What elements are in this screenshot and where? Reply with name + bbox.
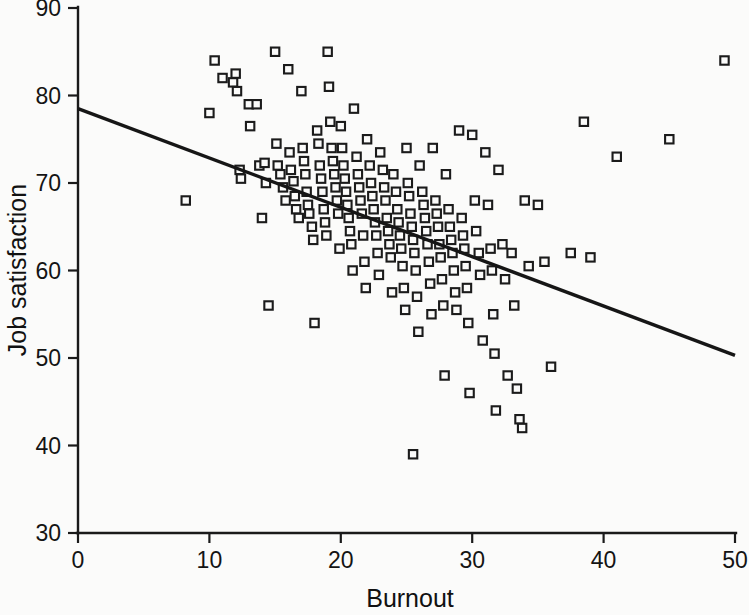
data-point: [330, 170, 338, 178]
data-point: [313, 126, 321, 134]
data-point: [387, 253, 395, 261]
data-point: [490, 349, 498, 357]
data-point: [325, 83, 333, 91]
data-point: [397, 244, 405, 252]
data-point-markers: [182, 48, 729, 459]
data-point: [355, 183, 363, 191]
data-point: [452, 306, 460, 314]
data-point: [359, 231, 367, 239]
data-point: [394, 218, 402, 226]
data-point: [347, 240, 355, 248]
data-point: [329, 157, 337, 165]
data-point: [498, 240, 506, 248]
data-point: [408, 223, 416, 231]
data-point: [411, 266, 419, 274]
x-axis-title: Burnout: [366, 584, 454, 612]
data-point: [393, 205, 401, 213]
data-point: [310, 319, 318, 327]
data-point: [246, 122, 254, 130]
data-point: [459, 231, 467, 239]
data-point: [339, 161, 347, 169]
data-point: [276, 170, 284, 178]
data-point: [468, 131, 476, 139]
data-point: [433, 209, 441, 217]
data-point: [434, 223, 442, 231]
data-point: [322, 231, 330, 239]
y-tick-label-30: 30: [35, 520, 61, 546]
data-point: [440, 371, 448, 379]
data-point: [342, 188, 350, 196]
data-point: [436, 253, 444, 261]
y-tick-label-80: 80: [35, 83, 61, 109]
data-point: [297, 87, 305, 95]
data-point: [446, 223, 454, 231]
data-point: [376, 148, 384, 156]
data-point: [379, 166, 387, 174]
data-point: [369, 205, 377, 213]
y-tick-label-70: 70: [35, 170, 61, 196]
data-point: [425, 258, 433, 266]
y-tick-label-40: 40: [35, 433, 61, 459]
data-point: [356, 196, 364, 204]
data-point: [385, 240, 393, 248]
x-tick-label-20: 20: [328, 547, 354, 573]
data-point: [521, 196, 529, 204]
data-point: [503, 371, 511, 379]
data-point: [362, 284, 370, 292]
data-point: [326, 118, 334, 126]
data-point: [298, 144, 306, 152]
data-point: [271, 48, 279, 56]
data-point: [396, 231, 404, 239]
x-tick-label-40: 40: [591, 547, 617, 573]
data-point: [447, 236, 455, 244]
data-point: [567, 249, 575, 257]
data-point: [465, 389, 473, 397]
data-point: [317, 174, 325, 182]
data-point: [471, 196, 479, 204]
data-point: [231, 69, 239, 77]
data-point: [389, 170, 397, 178]
data-point: [444, 205, 452, 213]
data-point: [486, 244, 494, 252]
y-tick-label-90: 90: [35, 0, 61, 21]
data-point: [260, 159, 268, 167]
x-tick-label-0: 0: [72, 547, 85, 573]
data-point: [360, 258, 368, 266]
y-axis-tick-labels: 30405060708090: [35, 0, 61, 546]
data-point: [354, 170, 362, 178]
data-point: [304, 201, 312, 209]
data-point: [318, 188, 326, 196]
data-point: [476, 271, 484, 279]
data-point: [547, 363, 555, 371]
data-point: [295, 214, 303, 222]
data-point: [484, 201, 492, 209]
plot-canvas: 30405060708090 01020304050 Burnout Job s…: [0, 0, 749, 615]
data-point: [426, 279, 434, 287]
data-point: [507, 249, 515, 257]
data-point: [372, 231, 380, 239]
data-point: [510, 301, 518, 309]
data-point: [337, 122, 345, 130]
data-point: [406, 209, 414, 217]
data-point: [720, 56, 728, 64]
data-point: [289, 177, 297, 185]
data-point: [421, 214, 429, 222]
data-point: [481, 148, 489, 156]
data-point: [392, 188, 400, 196]
data-point: [237, 174, 245, 182]
data-point: [450, 266, 458, 274]
data-point: [494, 166, 502, 174]
data-point: [413, 293, 421, 301]
data-point: [383, 214, 391, 222]
data-point: [501, 275, 509, 283]
data-point: [338, 144, 346, 152]
data-point: [534, 201, 542, 209]
data-point: [350, 104, 358, 112]
data-point: [316, 161, 324, 169]
y-tick-label-50: 50: [35, 345, 61, 371]
data-point: [292, 205, 300, 213]
data-point: [367, 179, 375, 187]
data-point: [463, 284, 471, 292]
data-point: [461, 262, 469, 270]
x-tick-label-50: 50: [722, 547, 748, 573]
